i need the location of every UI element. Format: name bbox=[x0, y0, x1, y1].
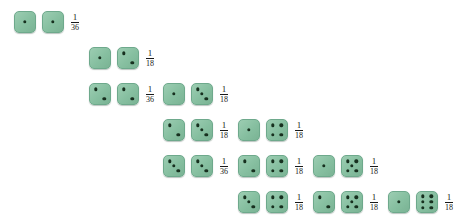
probability-fraction: 118 bbox=[445, 193, 453, 212]
die-pip bbox=[350, 164, 353, 167]
die-pip bbox=[327, 205, 330, 208]
probability-fraction: 118 bbox=[295, 157, 303, 176]
outcome-row: 136 bbox=[238, 220, 303, 222]
fraction-numerator: 1 bbox=[222, 121, 227, 131]
die-pip bbox=[421, 206, 424, 209]
die-pip bbox=[355, 169, 358, 172]
outcome-row: 136 bbox=[163, 148, 228, 184]
fraction-denominator: 18 bbox=[146, 59, 154, 68]
die-pip bbox=[205, 133, 208, 136]
die-face-1 bbox=[313, 155, 335, 177]
outcome-row: 118 bbox=[89, 40, 154, 76]
outcome-column-4: 118118118136 bbox=[238, 112, 303, 222]
die-pip bbox=[205, 169, 208, 172]
outcome-column-2: 118136 bbox=[89, 40, 154, 112]
die-pip bbox=[280, 169, 283, 172]
die-face-5 bbox=[341, 155, 363, 177]
die-pip bbox=[346, 205, 349, 208]
outcome-row: 118 bbox=[313, 184, 378, 220]
probability-fraction: 118 bbox=[146, 49, 154, 68]
fraction-numerator: 1 bbox=[222, 157, 227, 167]
die-face-3 bbox=[238, 191, 260, 213]
die-pip bbox=[421, 200, 424, 203]
die-pip bbox=[355, 159, 358, 162]
fraction-denominator: 18 bbox=[220, 131, 228, 140]
die-pip bbox=[271, 205, 274, 208]
fraction-denominator: 18 bbox=[370, 203, 378, 212]
die-face-3 bbox=[163, 155, 185, 177]
outcome-column-3: 118118136 bbox=[163, 76, 228, 184]
die-face-1 bbox=[388, 191, 410, 213]
fraction-denominator: 18 bbox=[295, 131, 303, 140]
die-face-4 bbox=[266, 155, 288, 177]
die-pip bbox=[51, 20, 54, 23]
die-pip bbox=[318, 195, 321, 198]
probability-fraction: 118 bbox=[220, 85, 228, 104]
outcome-row: 118 bbox=[313, 220, 378, 222]
die-pip bbox=[168, 159, 171, 162]
die-pip bbox=[280, 123, 283, 126]
die-face-2 bbox=[117, 83, 139, 105]
outcome-row: 118 bbox=[238, 148, 303, 184]
fraction-denominator: 36 bbox=[220, 167, 228, 176]
outcome-row: 118 bbox=[163, 112, 228, 148]
die-pip bbox=[280, 133, 283, 136]
die-pip bbox=[271, 133, 274, 136]
die-pip bbox=[196, 159, 199, 162]
die-pip bbox=[172, 92, 175, 95]
outcome-row: 136 bbox=[14, 4, 79, 40]
die-pip bbox=[172, 164, 175, 167]
fraction-denominator: 18 bbox=[295, 167, 303, 176]
outcome-column-6: 118118118118118136 bbox=[388, 184, 453, 222]
probability-fraction: 118 bbox=[370, 157, 378, 176]
die-face-4 bbox=[266, 119, 288, 141]
die-pip bbox=[122, 87, 125, 90]
probability-fraction: 118 bbox=[295, 193, 303, 212]
die-pip bbox=[346, 169, 349, 172]
probability-fraction: 136 bbox=[71, 13, 79, 32]
die-pip bbox=[122, 51, 125, 54]
die-face-1 bbox=[14, 11, 36, 33]
fraction-numerator: 1 bbox=[447, 193, 452, 203]
fraction-numerator: 1 bbox=[297, 121, 302, 131]
die-pip bbox=[103, 97, 106, 100]
probability-fraction: 118 bbox=[370, 193, 378, 212]
die-pip bbox=[247, 128, 250, 131]
die-pip bbox=[350, 200, 353, 203]
die-pip bbox=[271, 123, 274, 126]
fraction-numerator: 1 bbox=[372, 157, 377, 167]
outcome-row: 118 bbox=[238, 112, 303, 148]
die-pip bbox=[200, 164, 203, 167]
outcome-row: 136 bbox=[89, 76, 154, 112]
die-face-1 bbox=[42, 11, 64, 33]
fraction-denominator: 18 bbox=[370, 167, 378, 176]
outcome-row: 118 bbox=[163, 76, 228, 112]
outcome-column-5: 118118118118136 bbox=[313, 148, 378, 222]
die-pip bbox=[271, 169, 274, 172]
die-pip bbox=[196, 87, 199, 90]
probability-fraction: 118 bbox=[295, 121, 303, 140]
die-pip bbox=[421, 195, 424, 198]
probability-fraction: 136 bbox=[220, 157, 228, 176]
die-pip bbox=[247, 200, 250, 203]
die-pip bbox=[430, 195, 433, 198]
outcome-row: 118 bbox=[238, 184, 303, 220]
fraction-numerator: 1 bbox=[297, 157, 302, 167]
die-pip bbox=[252, 205, 255, 208]
die-pip bbox=[280, 195, 283, 198]
die-pip bbox=[355, 205, 358, 208]
fraction-numerator: 1 bbox=[297, 193, 302, 203]
fraction-denominator: 18 bbox=[220, 95, 228, 104]
fraction-denominator: 36 bbox=[146, 95, 154, 104]
die-face-1 bbox=[163, 83, 185, 105]
die-pip bbox=[168, 123, 171, 126]
die-face-6 bbox=[416, 191, 438, 213]
die-pip bbox=[131, 97, 134, 100]
probability-fraction: 118 bbox=[220, 121, 228, 140]
die-pip bbox=[131, 61, 134, 64]
die-face-2 bbox=[163, 119, 185, 141]
fraction-numerator: 1 bbox=[148, 49, 153, 59]
die-pip bbox=[346, 195, 349, 198]
fraction-denominator: 18 bbox=[445, 203, 453, 212]
die-pip bbox=[94, 87, 97, 90]
